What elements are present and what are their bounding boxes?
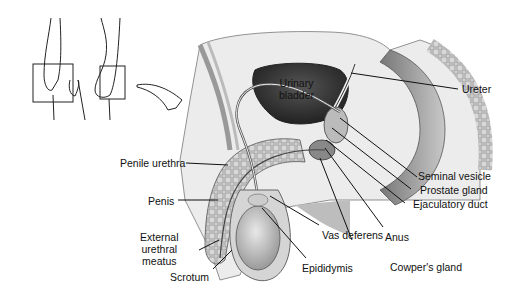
label-seminal-vesicle: Seminal vesicle <box>418 170 491 182</box>
label-anus: Anus <box>385 231 409 243</box>
label-ureter: Ureter <box>462 83 491 95</box>
label-epididymis: Epididymis <box>302 262 353 274</box>
label-vas-deferens: Vas deferens <box>322 229 383 241</box>
label-urinary-bladder-line1: Urinary <box>279 77 314 89</box>
label-external-urethral-meatus: External urethral meatus <box>140 231 179 267</box>
label-meatus-line1: External <box>140 231 179 243</box>
label-urinary-bladder: Urinary bladder <box>279 77 314 101</box>
anatomy-illustration <box>0 0 518 297</box>
label-meatus-line3: meatus <box>140 255 179 267</box>
section-body <box>180 32 486 281</box>
label-scrotum: Scrotum <box>170 271 209 283</box>
label-prostate-gland: Prostate gland <box>420 184 488 196</box>
diagram-canvas: Urinary bladder Ureter Seminal vesicle P… <box>0 0 518 297</box>
label-ejaculatory-duct: Ejaculatory duct <box>413 198 488 210</box>
label-penis: Penis <box>148 195 174 207</box>
label-cowpers-gland: Cowper's gland <box>390 261 462 273</box>
label-penile-urethra: Penile urethra <box>120 157 185 169</box>
label-meatus-line2: urethral <box>140 243 179 255</box>
label-urinary-bladder-line2: bladder <box>279 89 314 101</box>
inset-sketch <box>33 18 182 120</box>
